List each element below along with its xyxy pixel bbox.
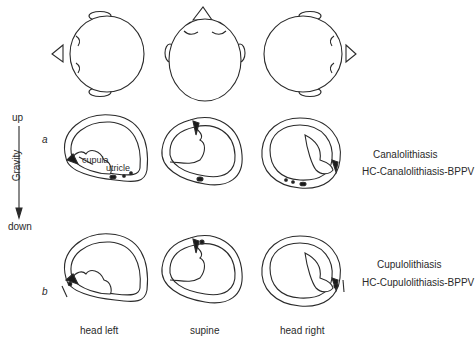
gravity-up-label: up <box>12 112 23 123</box>
row-a-marker: a <box>42 134 48 145</box>
gravity-arrowhead-icon <box>16 208 22 218</box>
canal-b-head-right <box>262 236 344 306</box>
row-a-title: Canalolithiasis <box>373 149 437 160</box>
head-right-icon <box>264 12 356 97</box>
column-label-head-left: head left <box>80 325 118 336</box>
column-label-head-right: head right <box>280 325 324 336</box>
canal-b-supine <box>162 236 242 303</box>
row-a-subtitle: HC-Canalolithiasis-BPPV <box>362 166 474 177</box>
gravity-axis-label: Gravity <box>11 146 22 186</box>
head-left-icon <box>52 12 144 97</box>
row-b-title: Cupulolithiasis <box>377 259 441 270</box>
annotation-utricle: utricle <box>106 163 130 173</box>
gravity-down-label: down <box>8 221 32 232</box>
canal-a-supine <box>162 118 242 185</box>
column-label-supine: supine <box>190 325 219 336</box>
annotation-cupula: cupula <box>82 155 109 165</box>
canal-b-head-left <box>62 234 148 302</box>
canal-a-head-right <box>262 118 341 188</box>
head-supine-icon <box>165 7 245 101</box>
row-b-marker: b <box>42 286 48 297</box>
row-b-subtitle: HC-Cupulolithiasis-BPPV <box>362 277 474 288</box>
